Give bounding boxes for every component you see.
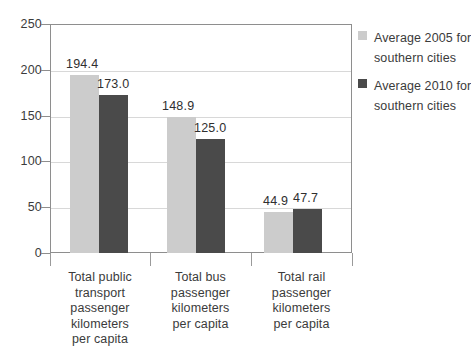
bar-2010-rail[interactable]	[293, 209, 322, 253]
data-label-2005-public-transport: 194.4	[66, 57, 98, 71]
y-tick-label-150: 150	[21, 109, 42, 123]
legend-entry-2005[interactable]: Average 2005 for southern cities	[358, 28, 466, 68]
legend-label-2010-line1: Average 2010 for	[374, 76, 466, 96]
y-tick-mark	[41, 161, 50, 162]
y-tick-label-100: 100	[21, 154, 42, 168]
x-tick-mark	[352, 253, 353, 266]
legend: Average 2005 for southern cities Average…	[358, 28, 466, 124]
y-axis: 250 200 150 100 50 0	[0, 0, 42, 340]
data-label-2010-rail: 47.7	[293, 191, 318, 205]
y-tick-label-200: 200	[21, 63, 42, 77]
legend-label-2005-line2: southern cities	[374, 48, 466, 68]
data-label-2005-rail: 44.9	[263, 194, 288, 208]
bar-2005-public-transport[interactable]	[70, 75, 99, 253]
y-tick-mark	[41, 70, 50, 71]
legend-swatch-icon-2010	[358, 79, 367, 88]
legend-swatch-icon-2005	[358, 31, 367, 40]
category-label-public-transport: Total public transport passenger kilomet…	[41, 270, 159, 348]
bar-2005-rail[interactable]	[264, 212, 293, 253]
y-tick-label-50: 50	[28, 200, 42, 214]
y-tick-mark	[41, 116, 50, 117]
x-tick-mark	[251, 253, 252, 266]
data-label-2010-bus: 125.0	[194, 121, 226, 135]
bar-2010-public-transport[interactable]	[99, 95, 128, 254]
category-label-rail: Total rail passenger kilometers per capi…	[253, 270, 350, 332]
legend-label-2010-line2: southern cities	[374, 96, 466, 116]
x-tick-mark	[50, 253, 51, 266]
y-tick-mark	[41, 207, 50, 208]
x-tick-mark	[150, 253, 151, 266]
y-tick-label-250: 250	[21, 17, 42, 31]
y-tick-mark	[41, 24, 50, 25]
category-label-bus: Total bus passenger kilometers per capit…	[152, 270, 249, 332]
legend-entry-2010[interactable]: Average 2010 for southern cities	[358, 76, 466, 116]
data-label-2010-public-transport: 173.0	[97, 77, 129, 91]
data-label-2005-bus: 148.9	[162, 99, 194, 113]
bar-2005-bus[interactable]	[167, 117, 196, 253]
y-tick-mark	[41, 253, 50, 254]
bars-layer: 194.4 173.0 148.9 125.0 44.9 47.7	[50, 24, 352, 253]
legend-label-2005-line1: Average 2005 for	[374, 28, 466, 48]
bar-2010-bus[interactable]	[196, 139, 225, 254]
